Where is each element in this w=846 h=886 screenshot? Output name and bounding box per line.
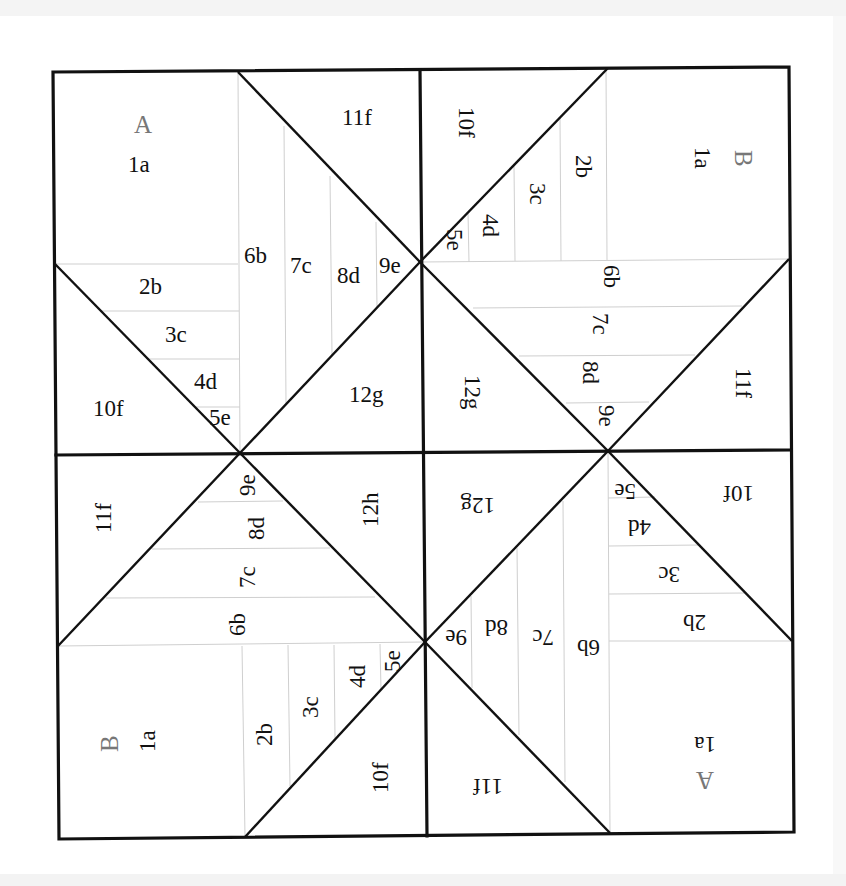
quilt-pattern: A 1a 2b 3c 4d 5e 6b 7c 8d 9e 10f 11f 12g… [0, 0, 846, 886]
piece-label: 6b [599, 265, 624, 288]
piece-label: 5e [380, 650, 405, 672]
section-letter: A [696, 767, 714, 794]
piece-label: 9e [594, 405, 619, 427]
piece-label: 6b [225, 613, 250, 636]
piece-label: 11f [731, 368, 756, 398]
piece-label: 10f [368, 762, 393, 793]
block-borders [53, 67, 794, 839]
piece-label: 11f [342, 105, 372, 130]
section-letter: B [96, 735, 123, 752]
block-top-left: A 1a 2b 3c 4d 5e 6b 7c 8d 9e 10f 11f 12g [93, 105, 401, 430]
section-letter: A [134, 111, 152, 138]
piece-label: 7c [290, 253, 312, 278]
piece-label: 3c [165, 322, 187, 347]
piece-label: 4d [345, 665, 370, 689]
piece-label: 10f [454, 107, 479, 138]
block-bottom-right: A 1a 2b 3c 4d 5e 6b 7c 8d 9e 10f 11f 12g [445, 479, 754, 799]
piece-label: 2b [683, 610, 706, 635]
piece-label: 2b [571, 155, 596, 178]
piece-label: 12g [460, 375, 485, 410]
piece-label: 11f [473, 774, 503, 799]
piece-label: 7c [588, 313, 613, 335]
piece-label: 5e [614, 479, 636, 504]
piece-label: 12g [460, 493, 495, 518]
block-bottom-left: B 1a 2b 3c 4d 5e 6b 7c 8d 9e 10f 11f 12h [91, 474, 405, 793]
piece-label: 6b [244, 243, 267, 268]
piece-label: 8d [485, 615, 509, 640]
section-letter: B [730, 150, 757, 167]
piece-label: 8d [244, 517, 269, 541]
piece-label: 10f [93, 396, 124, 421]
piece-label: 12g [349, 382, 384, 407]
piece-label: 8d [578, 361, 603, 385]
piece-label: 5e [442, 229, 467, 251]
piece-label: 4d [478, 214, 503, 238]
piece-label: 4d [628, 515, 652, 540]
piece-label: 1a [690, 147, 715, 169]
piece-label: 7c [235, 566, 260, 588]
piece-label: 2b [252, 723, 277, 746]
piece-label: 12h [358, 492, 383, 527]
piece-label: 10f [723, 481, 754, 506]
piece-label: 7c [532, 625, 554, 650]
piece-label: 3c [658, 562, 680, 587]
piece-label: 1a [128, 152, 150, 177]
piece-label: 6b [577, 635, 600, 660]
piece-label: 1a [135, 730, 160, 752]
piece-label: 9e [445, 625, 467, 650]
piece-label: 3c [525, 183, 550, 205]
piece-label: 5e [209, 405, 231, 430]
piece-label: 11f [91, 503, 116, 533]
piece-label: 8d [337, 263, 361, 288]
piece-label: 9e [235, 474, 260, 496]
piece-label: 3c [298, 696, 323, 718]
piece-label: 4d [194, 369, 218, 394]
block-top-right: B 1a 2b 3c 4d 5e 6b 7c 8d 9e 10f 11f 12g [442, 107, 757, 427]
piece-label: 2b [139, 274, 162, 299]
piece-label: 1a [694, 732, 716, 757]
piece-label: 9e [379, 253, 401, 278]
